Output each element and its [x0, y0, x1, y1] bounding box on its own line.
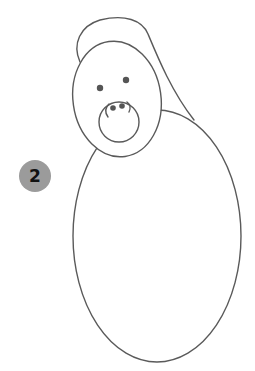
- step-number: 2: [29, 166, 41, 186]
- nostril-right: [119, 103, 125, 109]
- head-outline: [65, 35, 168, 162]
- nostril-left: [110, 105, 116, 111]
- step-number-badge: 2: [19, 160, 51, 192]
- eye-right: [123, 77, 129, 83]
- eye-left: [97, 85, 103, 91]
